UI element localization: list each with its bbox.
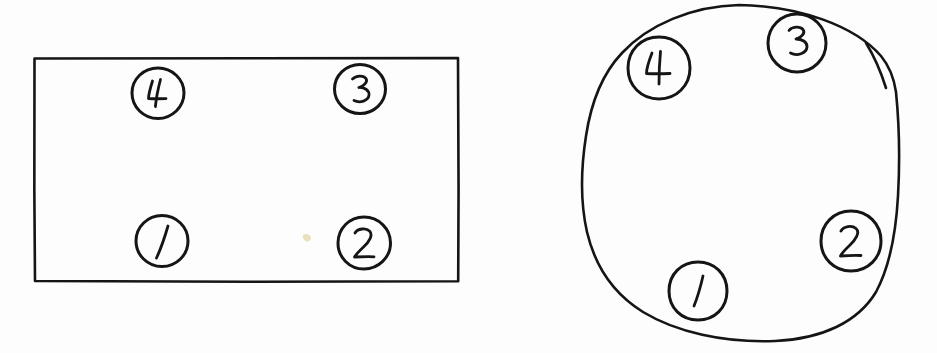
seat-label-2 — [841, 226, 862, 256]
round-table-panel — [582, 5, 899, 341]
rectangular-table-panel — [34, 58, 458, 282]
seat-circle-outline — [335, 65, 386, 114]
seat-1-rectangular — [136, 216, 188, 267]
seat-3-rectangular — [335, 65, 386, 114]
seat-label-4 — [149, 80, 167, 107]
seat-1-round — [669, 262, 727, 320]
seat-label-3 — [353, 76, 370, 102]
seat-label-2 — [355, 229, 375, 257]
seat-label-1 — [694, 276, 703, 306]
seat-2-round — [821, 211, 881, 271]
seat-circle-outline — [821, 211, 881, 271]
seat-4-round — [628, 37, 690, 99]
seat-4-rectangular — [132, 68, 184, 119]
seat-label-1 — [157, 226, 169, 258]
seat-label-3 — [789, 27, 807, 54]
sketch-figure — [0, 0, 937, 353]
seat-circle-outline — [768, 14, 826, 72]
paper-smudge — [303, 234, 311, 241]
seat-3-round — [768, 14, 826, 72]
rectangle-outline — [34, 58, 458, 282]
drawing-canvas — [0, 0, 937, 353]
seat-circle-outline — [338, 217, 391, 269]
seat-label-4 — [647, 52, 671, 85]
seat-2-rectangular — [338, 217, 391, 269]
